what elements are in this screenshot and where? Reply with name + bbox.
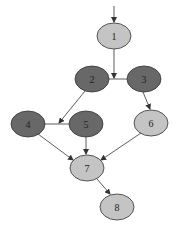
node-8-label: 8: [115, 202, 120, 213]
node-1-label: 1: [112, 31, 117, 42]
node-2-label: 2: [90, 74, 95, 85]
nodes-group: 12345678: [11, 23, 168, 220]
node-1: 1: [97, 23, 131, 49]
node-7-label: 7: [85, 163, 90, 174]
edge-3-to-6: [143, 92, 150, 109]
node-4: 4: [11, 111, 45, 137]
node-5: 5: [69, 111, 103, 137]
node-3: 3: [127, 66, 161, 92]
node-8: 8: [100, 194, 134, 220]
node-3-label: 3: [142, 74, 147, 85]
node-4-label: 4: [26, 119, 31, 130]
node-6: 6: [134, 110, 168, 136]
node-5-label: 5: [84, 119, 89, 130]
flow-graph-diagram: 12345678: [0, 0, 176, 226]
node-7: 7: [70, 155, 104, 181]
edge-6-to-7: [101, 133, 141, 160]
edge-7-to-8: [97, 179, 110, 194]
node-6-label: 6: [149, 118, 154, 129]
edge-4-to-7: [38, 134, 73, 160]
node-2: 2: [75, 66, 109, 92]
